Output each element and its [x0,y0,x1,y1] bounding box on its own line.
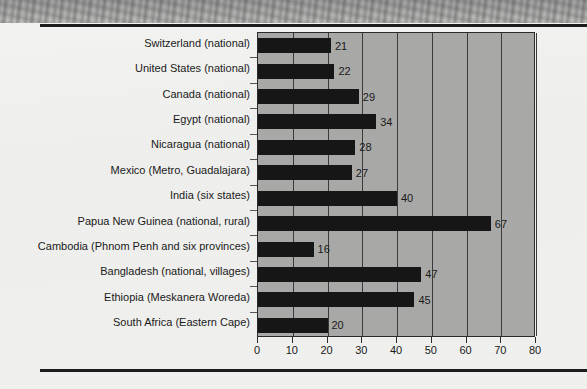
x-tick-label-10: 10 [286,344,298,356]
horizontal-rule-bottom [40,369,587,372]
plot-area: 212229342827406716474520 [257,32,535,337]
category-label: Cambodia (Phnom Penh and six provinces) [0,240,250,252]
bar [258,318,328,333]
bar-value-label: 28 [355,141,371,153]
y-tick [250,286,257,287]
bar-row: 27 [258,165,534,180]
x-tick-10 [292,337,293,343]
bar-row: 40 [258,191,534,206]
page-top-photo-band [0,0,587,23]
bar [258,38,331,53]
category-label: Bangladesh (national, villages) [0,265,250,277]
y-tick [250,159,257,160]
bar [258,165,352,180]
bar-value-label: 16 [314,243,330,255]
category-label: Egypt (national) [0,113,250,125]
bar-row: 28 [258,140,534,155]
bar-value-label: 27 [352,167,368,179]
y-tick [250,261,257,262]
y-tick [250,185,257,186]
x-tick-70 [500,337,501,343]
x-tick-60 [466,337,467,343]
gridline-80 [536,33,537,336]
bar-chart: Switzerland (national)United States (nat… [0,27,587,367]
bar [258,89,359,104]
category-label: Canada (national) [0,88,250,100]
bar-row: 47 [258,267,534,282]
bar [258,242,314,257]
y-tick [250,108,257,109]
x-tick-label-0: 0 [254,344,260,356]
y-tick [250,235,257,236]
category-label: Nicaragua (national) [0,138,250,150]
x-tick-50 [431,337,432,343]
y-tick [250,210,257,211]
x-tick-label-80: 80 [529,344,541,356]
category-label: United States (national) [0,62,250,74]
bar-value-label: 21 [331,40,347,52]
bar-value-label: 20 [328,319,344,331]
x-tick-label-60: 60 [459,344,471,356]
category-label: Mexico (Metro, Guadalajara) [0,164,250,176]
x-tick-0 [257,337,258,343]
bar-rows: 212229342827406716474520 [258,33,534,336]
bar-row: 34 [258,114,534,129]
bar-value-label: 45 [414,294,430,306]
x-tick-30 [361,337,362,343]
x-axis: 01020304050607080 [257,337,535,359]
bar-row: 21 [258,38,534,53]
bar-value-label: 34 [376,116,392,128]
bar-value-label: 29 [359,91,375,103]
category-label: India (six states) [0,189,250,201]
bar [258,140,355,155]
bar [258,267,421,282]
bar [258,292,414,307]
bar-row: 22 [258,64,534,79]
x-tick-label-70: 70 [494,344,506,356]
category-label: South Africa (Eastern Cape) [0,316,250,328]
bar [258,216,491,231]
x-tick-20 [327,337,328,343]
y-tick [250,312,257,313]
y-tick [250,83,257,84]
x-tick-80 [535,337,536,343]
bar-row: 16 [258,242,534,257]
x-tick-40 [396,337,397,343]
y-tick [250,57,257,58]
bar [258,191,397,206]
bar-row: 29 [258,89,534,104]
x-tick-label-50: 50 [425,344,437,356]
bar [258,64,334,79]
y-tick [250,134,257,135]
bar-value-label: 67 [491,218,507,230]
bar-row: 67 [258,216,534,231]
bar [258,114,376,129]
x-tick-label-30: 30 [355,344,367,356]
category-label: Switzerland (national) [0,37,250,49]
category-label: Papua New Guinea (national, rural) [0,215,250,227]
category-label: Ethiopia (Meskanera Woreda) [0,291,250,303]
bar-value-label: 22 [334,65,350,77]
bar-row: 20 [258,318,534,333]
bar-value-label: 47 [421,268,437,280]
x-tick-label-20: 20 [320,344,332,356]
bar-value-label: 40 [397,192,413,204]
bar-row: 45 [258,292,534,307]
x-tick-label-40: 40 [390,344,402,356]
